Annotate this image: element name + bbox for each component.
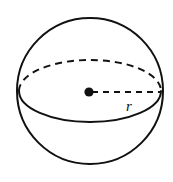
sphere-figure-canvas: r: [0, 0, 173, 182]
radius-label: r: [126, 98, 132, 114]
center-point-dot: [84, 87, 93, 96]
sphere-diagram: r: [0, 0, 173, 182]
